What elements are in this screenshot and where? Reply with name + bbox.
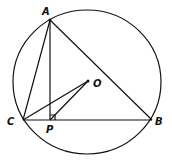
point-A — [49, 19, 52, 22]
label-C: C — [7, 116, 15, 127]
geometry-diagram: A B C P O — [0, 0, 172, 163]
label-O: O — [93, 78, 102, 89]
segment-AC — [23, 20, 50, 120]
label-P: P — [46, 124, 54, 135]
label-A: A — [41, 6, 50, 17]
label-B: B — [155, 116, 163, 127]
point-O — [87, 80, 90, 83]
